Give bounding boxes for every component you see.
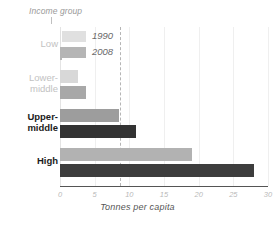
gridline-30 bbox=[268, 27, 269, 186]
category-label-upper-middle: Upper-middle bbox=[0, 112, 58, 133]
bar-lower-middle-2008 bbox=[60, 86, 86, 99]
bar-high-1990 bbox=[60, 148, 192, 161]
y-axis-caption-tick bbox=[51, 17, 52, 24]
gridline-20 bbox=[199, 27, 200, 186]
x-axis-line bbox=[60, 186, 268, 187]
legend-swatch-2008 bbox=[62, 47, 86, 58]
emissions-bar-chart: Income group 051015202530 Tonnes per cap… bbox=[0, 0, 275, 226]
bar-upper-middle-2008 bbox=[60, 125, 136, 138]
x-tick-20: 20 bbox=[194, 190, 202, 199]
legend-swatch-1990 bbox=[62, 31, 86, 42]
x-tick-10: 10 bbox=[125, 190, 133, 199]
legend-label-2008: 2008 bbox=[92, 46, 113, 57]
gridline-10 bbox=[129, 27, 130, 186]
category-label-low: Low bbox=[0, 39, 58, 50]
x-tick-0: 0 bbox=[58, 190, 62, 199]
x-tick-15: 15 bbox=[160, 190, 168, 199]
y-axis-caption: Income group bbox=[29, 6, 82, 16]
reference-line bbox=[120, 27, 121, 186]
bar-lower-middle-1990 bbox=[60, 70, 78, 83]
category-label-lower-middle: Lower-middle bbox=[0, 73, 58, 94]
category-label-high: High bbox=[0, 156, 58, 167]
bar-upper-middle-1990 bbox=[60, 109, 119, 122]
gridline-25 bbox=[233, 27, 234, 186]
x-axis-title: Tonnes per capita bbox=[0, 202, 275, 212]
x-tick-30: 30 bbox=[264, 190, 272, 199]
gridline-15 bbox=[164, 27, 165, 186]
x-tick-5: 5 bbox=[93, 190, 97, 199]
bar-high-2008 bbox=[60, 164, 254, 177]
x-tick-25: 25 bbox=[229, 190, 237, 199]
legend-label-1990: 1990 bbox=[92, 30, 113, 41]
